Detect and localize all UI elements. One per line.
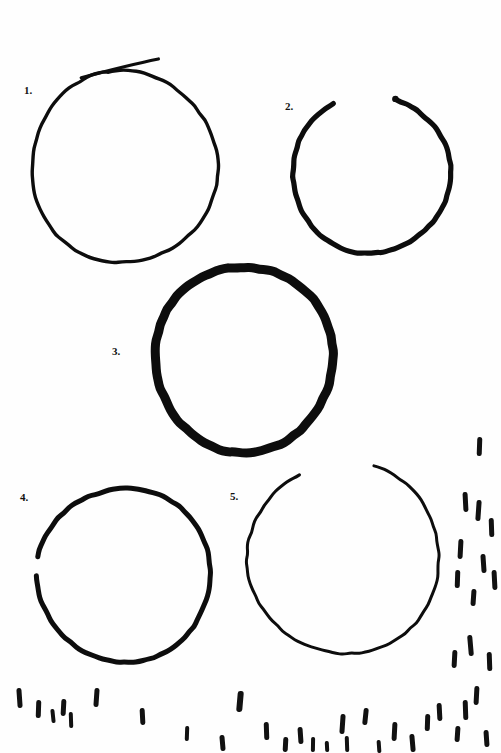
tick-mark-bottom-15 (339, 714, 345, 734)
tick-mark-right-6 (455, 570, 461, 588)
tick-mark-bottom-5 (93, 688, 99, 707)
tick-mark-bottom-6 (140, 708, 146, 725)
tick-mark-bottom-26 (483, 730, 489, 747)
tick-mark-right-8 (470, 589, 476, 606)
tick-mark-right-9 (467, 635, 474, 656)
tick-mark-right-10 (452, 650, 458, 668)
tick-mark-bottom-22 (437, 703, 443, 721)
tick-mark-right-1 (462, 492, 468, 512)
tick-mark-bottom-4 (69, 712, 74, 728)
tick-mark-right-3 (489, 518, 495, 537)
hand-drawn-circles-group (32, 59, 451, 662)
tick-mark-right-7 (491, 570, 497, 590)
tick-mark-bottom-1 (36, 700, 42, 718)
figure-number-label-3: 3. (112, 346, 120, 357)
scanned-plate-page: 1.2.3.4.5. (0, 0, 501, 753)
tick-mark-bottom-17 (362, 708, 369, 725)
tick-mark-bottom-9 (236, 691, 244, 712)
figure-number-label-5: 5. (230, 491, 238, 502)
circle-stroke-4 (36, 488, 210, 662)
tick-mark-bottom-16 (345, 736, 350, 752)
tick-mark-bottom-25 (474, 686, 480, 705)
circles-plate (0, 0, 501, 753)
tick-mark-bottom-21 (425, 714, 431, 731)
circle-stroke-1 (32, 70, 218, 262)
tick-mark-bottom-8 (219, 735, 225, 751)
tick-mark-bottom-18 (377, 740, 382, 753)
tick-mark-bottom-7 (185, 726, 190, 741)
tick-mark-bottom-23 (454, 726, 460, 742)
circle-stroke-5 (246, 466, 439, 654)
tick-mark-bottom-14 (325, 741, 330, 752)
tick-mark-bottom-3 (61, 699, 67, 716)
figure-number-label-1: 1. (24, 85, 32, 96)
tick-mark-right-11 (487, 652, 493, 671)
tick-mark-right-2 (475, 500, 481, 521)
circle-2-stroke-terminal (392, 96, 398, 102)
tick-mark-bottom-13 (311, 737, 315, 752)
tick-mark-bottom-12 (297, 727, 303, 744)
tick-mark-bottom-2 (50, 709, 55, 723)
figure-number-label-2: 2. (285, 101, 293, 112)
tick-mark-right-4 (457, 539, 463, 559)
tick-mark-right-0 (477, 437, 483, 456)
tick-marks-group (16, 437, 497, 753)
tick-mark-bottom-11 (283, 737, 289, 752)
tick-mark-bottom-20 (409, 734, 416, 752)
tick-mark-bottom-24 (463, 700, 469, 720)
circle-stroke-3 (155, 267, 333, 452)
tick-mark-bottom-10 (264, 722, 270, 740)
tick-mark-bottom-0 (16, 688, 22, 708)
circle-stroke-2 (293, 99, 451, 253)
figure-number-label-4: 4. (20, 492, 28, 503)
tick-mark-right-5 (480, 554, 486, 573)
tick-mark-bottom-19 (392, 722, 398, 741)
